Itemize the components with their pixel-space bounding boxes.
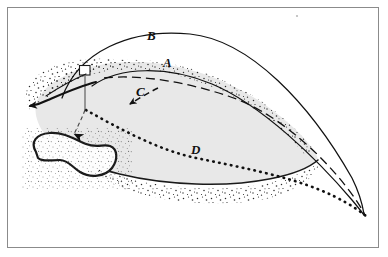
figure-root: A B C D <box>0 0 388 257</box>
scan-speck <box>296 15 298 17</box>
marker-square[interactable] <box>80 66 91 76</box>
label-D: D <box>191 143 200 156</box>
label-B: B <box>147 29 156 42</box>
label-A: A <box>163 56 172 69</box>
label-C: C <box>136 85 145 98</box>
diagram-canvas <box>0 0 388 257</box>
